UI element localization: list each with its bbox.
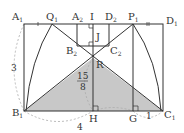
label-D1: D1: [166, 15, 178, 27]
right-angle-i: [89, 24, 93, 28]
label-D2: D2: [105, 11, 117, 23]
label-R: R: [96, 59, 104, 70]
label-H: H: [89, 113, 98, 124]
label-I: I: [90, 11, 94, 22]
right-angle-j: [89, 42, 93, 46]
label-C2: C2: [110, 45, 122, 57]
label-B1: B1: [12, 107, 23, 119]
geometry-figure: A1 Q1 A2 I D2 P1 D1 J B2 C2 R B1 H G C1 …: [0, 0, 184, 133]
arc-bottom-dashed: [24, 111, 93, 122]
label-G: G: [129, 113, 137, 124]
measure-gc1: 1: [146, 111, 152, 121]
label-A1: A1: [11, 11, 23, 23]
measure-bottom: 4: [77, 122, 83, 132]
label-Q1: Q1: [46, 11, 58, 23]
measure-left: 3: [11, 63, 17, 73]
measure-rh-num: 15: [77, 71, 89, 81]
label-J: J: [95, 31, 100, 42]
label-A2: A2: [71, 11, 83, 23]
label-B2: B2: [66, 45, 77, 57]
label-C1: C1: [164, 109, 175, 121]
measure-rh-den: 8: [80, 82, 86, 92]
label-P1: P1: [128, 11, 139, 23]
